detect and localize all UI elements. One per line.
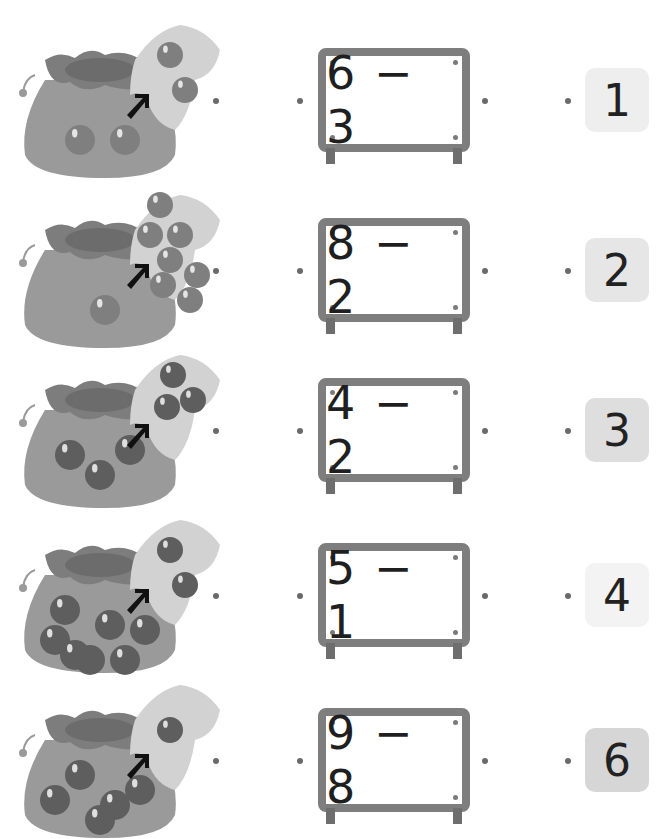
matching-row: 8 − 2 2 <box>0 190 662 355</box>
subtraction-expression: 8 − 2 <box>326 226 462 314</box>
connector-dot-board-left[interactable] <box>297 758 303 764</box>
subtraction-expression: 6 − 3 <box>326 56 462 144</box>
answer-box[interactable]: 3 <box>585 398 649 462</box>
connector-dot-left[interactable] <box>213 428 219 434</box>
matching-row: 9 − 8 6 <box>0 680 662 839</box>
marble-bag-picture <box>15 190 225 350</box>
connector-dot-board-right[interactable] <box>482 428 488 434</box>
connector-dot-left[interactable] <box>213 758 219 764</box>
subtraction-board: 8 − 2 <box>318 218 470 336</box>
connector-dot-left[interactable] <box>213 593 219 599</box>
connector-dot-board-right[interactable] <box>482 758 488 764</box>
connector-dot-left[interactable] <box>213 98 219 104</box>
connector-dot-answer[interactable] <box>565 428 571 434</box>
connector-dot-answer[interactable] <box>565 758 571 764</box>
subtraction-expression: 9 − 8 <box>326 716 462 804</box>
connector-dot-board-left[interactable] <box>297 593 303 599</box>
connector-dot-answer[interactable] <box>565 268 571 274</box>
subtraction-board: 9 − 8 <box>318 708 470 826</box>
answer-box[interactable]: 6 <box>585 728 649 792</box>
subtraction-board: 6 − 3 <box>318 48 470 166</box>
subtraction-expression: 4 − 2 <box>326 386 462 474</box>
marble-bag-picture <box>15 350 225 510</box>
connector-dot-answer[interactable] <box>565 98 571 104</box>
answer-box[interactable]: 1 <box>585 68 649 132</box>
answer-box[interactable]: 4 <box>585 563 649 627</box>
marble-bag-picture <box>15 20 225 180</box>
marble-bag-picture <box>15 680 225 839</box>
connector-dot-board-left[interactable] <box>297 268 303 274</box>
connector-dot-board-left[interactable] <box>297 428 303 434</box>
answer-box[interactable]: 2 <box>585 238 649 302</box>
subtraction-board: 4 − 2 <box>318 378 470 496</box>
connector-dot-left[interactable] <box>213 268 219 274</box>
matching-row: 5 − 1 4 <box>0 515 662 680</box>
connector-dot-answer[interactable] <box>565 593 571 599</box>
marble-bag-picture <box>15 515 225 675</box>
subtraction-board: 5 − 1 <box>318 543 470 661</box>
connector-dot-board-left[interactable] <box>297 98 303 104</box>
connector-dot-board-right[interactable] <box>482 268 488 274</box>
connector-dot-board-right[interactable] <box>482 98 488 104</box>
connector-dot-board-right[interactable] <box>482 593 488 599</box>
subtraction-expression: 5 − 1 <box>326 551 462 639</box>
matching-row: 6 − 3 1 <box>0 20 662 185</box>
matching-row: 4 − 2 3 <box>0 350 662 515</box>
